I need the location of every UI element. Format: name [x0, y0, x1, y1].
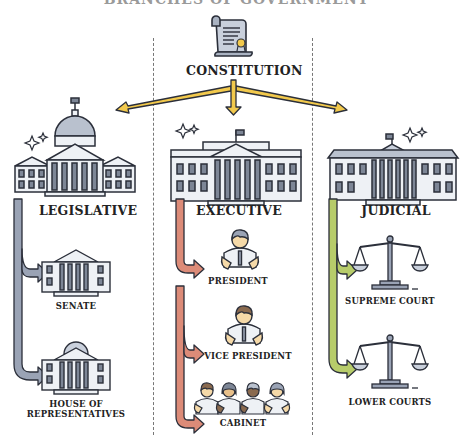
child-label-president: PRESIDENT: [198, 276, 278, 286]
child-label-house-line1: HOUSE OF: [36, 399, 116, 409]
child-label-vice-president: VICE PRESIDENT: [198, 351, 298, 361]
sparkle-icon: [176, 124, 198, 138]
child-label-lower-courts: LOWER COURTS: [340, 397, 440, 407]
white-house-icon: [168, 124, 304, 209]
capitol-building-icon: [10, 96, 150, 196]
group-people-icon: [192, 380, 292, 418]
courthouse-icon: [326, 128, 460, 208]
sparkle-icon: [25, 133, 47, 150]
senate-building-icon: [40, 248, 112, 298]
branch-label-judicial: JUDICIAL: [356, 203, 436, 218]
person-icon: [222, 303, 266, 349]
scales-of-justice-icon: [352, 334, 428, 394]
branch-label-legislative: LEGISLATIVE: [38, 203, 138, 218]
arrow-to-executive: [226, 80, 241, 115]
sparkle-icon: [403, 128, 426, 142]
executive-arrow-top: [173, 199, 213, 279]
child-label-house-line2: REPRESENTATIVES: [26, 409, 126, 419]
person-icon: [218, 227, 262, 273]
arrow-to-judicial: [236, 86, 347, 113]
scales-of-justice-icon: [352, 235, 428, 295]
child-label-supreme-court: SUPREME COURT: [340, 296, 440, 306]
child-label-cabinet: CABINET: [208, 418, 278, 428]
child-label-senate: SENATE: [41, 301, 111, 311]
domed-building-icon: [40, 338, 112, 396]
